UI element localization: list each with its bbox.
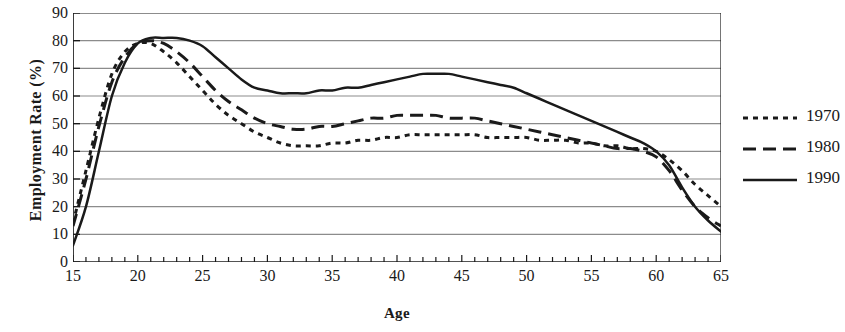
x-axis-tick-label: 50 (507, 268, 547, 284)
x-axis-tick-label: 15 (53, 268, 93, 284)
y-axis-tick-label: 90 (34, 5, 68, 21)
y-axis-tick-label: 20 (34, 199, 68, 215)
y-axis-tick-label: 50 (34, 116, 68, 132)
y-axis-tick-label: 60 (34, 88, 68, 104)
series-line-1970 (73, 42, 721, 223)
legend-line-swatch (742, 141, 798, 153)
y-axis-tick-label: 40 (34, 143, 68, 159)
y-axis-tick-labels: 9080706050403020100 (28, 13, 68, 262)
y-axis-tick-label: 30 (34, 171, 68, 187)
legend-item-1990: 1990 (742, 162, 842, 193)
x-axis-tick-labels: 1520253035404550556065 (73, 268, 721, 292)
legend: 197019801990 (742, 100, 842, 193)
x-axis-tick-label: 40 (377, 268, 417, 284)
plot-svg (73, 13, 721, 262)
x-axis-tick-label: 45 (442, 268, 482, 284)
x-axis-tick-label: 20 (118, 268, 158, 284)
legend-label: 1990 (798, 168, 840, 188)
legend-item-1970: 1970 (742, 100, 842, 131)
y-axis-tick-label: 80 (34, 33, 68, 49)
x-axis-tick-label: 25 (183, 268, 223, 284)
y-axis-tick-label: 10 (34, 226, 68, 242)
employment-rate-chart: Employment Rate (%) 9080706050403020100 … (0, 0, 845, 332)
x-axis-tick-label: 55 (571, 268, 611, 284)
x-axis-tick-label: 60 (636, 268, 676, 284)
legend-label: 1980 (798, 137, 840, 157)
legend-label: 1970 (798, 106, 840, 126)
legend-line-swatch (742, 172, 798, 184)
y-axis-tick-label: 70 (34, 60, 68, 76)
plot-area (73, 13, 721, 262)
x-axis-tick-label: 30 (247, 268, 287, 284)
x-axis-title: Age (73, 305, 721, 322)
x-axis-tick-label: 35 (312, 268, 352, 284)
legend-line-swatch (742, 110, 798, 122)
legend-item-1980: 1980 (742, 131, 842, 162)
x-axis-tick-label: 65 (701, 268, 741, 284)
